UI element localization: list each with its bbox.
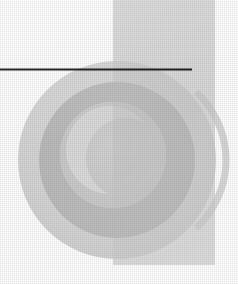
figure-canvas: Abstract grayscale circular composition [0, 0, 238, 284]
abstract-graphic [0, 0, 238, 284]
